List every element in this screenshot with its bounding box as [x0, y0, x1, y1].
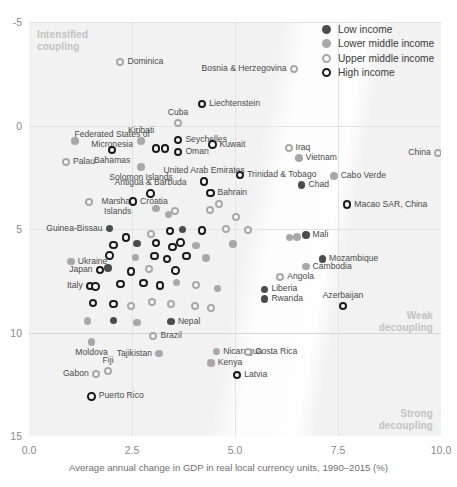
data-point[interactable] — [152, 239, 161, 248]
data-point-solomon-islands[interactable] — [137, 163, 145, 171]
data-point[interactable] — [179, 226, 187, 234]
data-point[interactable] — [152, 144, 161, 153]
data-point[interactable] — [116, 280, 125, 289]
data-point[interactable] — [139, 279, 148, 288]
data-point-angola[interactable] — [276, 273, 284, 281]
data-point-fiji[interactable] — [104, 367, 112, 375]
data-point[interactable] — [168, 243, 177, 252]
data-point-chad[interactable] — [298, 181, 306, 189]
data-point-azerbaijan[interactable] — [339, 302, 348, 311]
data-point[interactable] — [192, 242, 200, 250]
data-point[interactable] — [232, 213, 240, 221]
data-point[interactable] — [215, 200, 223, 208]
legend-item-lowermid[interactable]: Lower middle income — [322, 37, 434, 52]
data-point-seychelles[interactable] — [174, 136, 183, 145]
legend: Low incomeLower middle incomeUpper middl… — [322, 22, 434, 80]
data-point-latvia[interactable] — [233, 371, 242, 380]
data-point[interactable] — [110, 317, 118, 325]
data-point-macao-sar-china[interactable] — [343, 200, 352, 209]
data-point-dominica[interactable] — [116, 58, 124, 66]
data-point-brazil[interactable] — [149, 332, 157, 340]
data-point[interactable] — [156, 281, 165, 290]
legend-item-low[interactable]: Low income — [322, 22, 434, 37]
data-point[interactable] — [105, 251, 114, 260]
data-point-puerto-rico[interactable] — [87, 392, 96, 401]
y-tick-label: 0 — [0, 120, 22, 132]
data-point-vietnam[interactable] — [295, 154, 303, 162]
data-point[interactable] — [148, 298, 156, 306]
data-point-united-arab-emirates[interactable] — [200, 177, 209, 186]
point-label: Brazil — [160, 331, 182, 341]
data-point[interactable] — [132, 254, 140, 262]
data-point[interactable] — [84, 317, 92, 325]
data-point[interactable] — [147, 230, 155, 238]
data-point[interactable] — [163, 255, 172, 264]
data-point[interactable] — [222, 225, 230, 233]
data-point[interactable] — [152, 205, 160, 213]
data-point[interactable] — [244, 226, 252, 234]
data-point-mali[interactable] — [302, 231, 310, 239]
data-point[interactable] — [104, 264, 112, 272]
legend-item-high[interactable]: High income — [322, 66, 434, 81]
data-point[interactable] — [191, 302, 199, 310]
data-point[interactable] — [109, 241, 118, 250]
data-point-marshall-islands[interactable] — [85, 198, 93, 206]
data-point-moldova[interactable] — [88, 338, 96, 346]
data-point[interactable] — [166, 227, 175, 236]
data-point-tajikistan[interactable] — [155, 350, 163, 358]
data-point[interactable] — [133, 319, 141, 327]
legend-item-uppermid[interactable]: Upper middle income — [322, 51, 434, 66]
data-point[interactable] — [122, 233, 131, 242]
data-point-mozambique[interactable] — [319, 255, 327, 263]
data-point[interactable] — [150, 252, 159, 261]
data-point-kenya[interactable] — [207, 359, 215, 367]
data-point[interactable] — [198, 226, 207, 235]
data-point-antigua-barbuda[interactable] — [146, 189, 155, 198]
data-point-bahamas[interactable] — [108, 146, 117, 155]
data-point-cambodia[interactable] — [302, 263, 310, 271]
data-point[interactable] — [176, 238, 185, 247]
data-point[interactable] — [202, 254, 210, 262]
data-point[interactable] — [161, 144, 170, 153]
data-point-nicaragua[interactable] — [213, 348, 221, 356]
data-point-liechtenstein[interactable] — [198, 100, 207, 109]
data-point[interactable] — [167, 300, 175, 308]
data-point-kuwait[interactable] — [208, 140, 217, 149]
data-point[interactable] — [173, 279, 181, 287]
data-point[interactable] — [207, 304, 215, 312]
data-point[interactable] — [109, 300, 118, 309]
data-point-guinea-bissau[interactable] — [106, 225, 114, 233]
data-point-bahrain[interactable] — [206, 189, 215, 198]
data-point[interactable] — [182, 252, 191, 261]
data-point-rwanda[interactable] — [261, 295, 269, 303]
data-point-bosnia-herzegovina[interactable] — [290, 65, 298, 73]
data-point-nepal[interactable] — [167, 318, 175, 326]
data-point[interactable] — [91, 282, 100, 291]
data-point[interactable] — [133, 240, 141, 248]
data-point-china[interactable] — [434, 149, 441, 157]
data-point[interactable] — [171, 207, 179, 215]
data-point-oman[interactable] — [174, 148, 183, 157]
data-point-liberia[interactable] — [261, 286, 269, 294]
data-point-trinidad-tobago[interactable] — [236, 171, 245, 180]
point-label: Macao SAR, China — [354, 200, 427, 210]
data-point-cabo-verde[interactable] — [330, 172, 338, 180]
data-point[interactable] — [293, 233, 301, 241]
data-point-federated-states-of-micronesia[interactable] — [71, 137, 79, 145]
data-point-croatia[interactable] — [129, 197, 138, 206]
data-point[interactable] — [286, 234, 294, 242]
data-point[interactable] — [192, 281, 200, 289]
data-point-iraq[interactable] — [285, 144, 293, 152]
data-point-japan[interactable] — [96, 266, 105, 275]
data-point-kiribati[interactable] — [137, 137, 145, 145]
data-point[interactable] — [229, 240, 237, 248]
data-point-gabon[interactable] — [92, 370, 100, 378]
data-point[interactable] — [214, 285, 222, 293]
data-point[interactable] — [145, 265, 153, 273]
data-point[interactable] — [206, 206, 214, 214]
data-point[interactable] — [127, 302, 135, 310]
point-label: Dominica — [127, 57, 163, 67]
data-point[interactable] — [89, 299, 98, 308]
data-point[interactable] — [127, 267, 136, 276]
data-point[interactable] — [171, 266, 180, 275]
